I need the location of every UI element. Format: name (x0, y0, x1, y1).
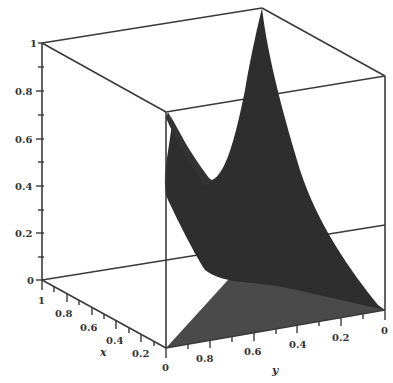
y-tick-label: 0 (381, 325, 388, 336)
z-tick-label: 1 (30, 38, 37, 49)
y-tick-label: 0.2 (332, 332, 349, 343)
x-tick-label: 0.6 (80, 322, 97, 333)
z-tick-label: 0 (27, 275, 34, 286)
x-tick-label: 0.8 (55, 308, 72, 319)
surface-main (165, 8, 385, 310)
x-tick-label: 0.4 (106, 335, 123, 346)
x-axis-title: x (99, 346, 107, 359)
z-tick-label: 0.8 (15, 86, 32, 97)
y-axis-title: y (271, 364, 280, 377)
x-axis-labels: 1 0.8 0.6 0.4 0.2 x (38, 295, 149, 359)
z-tick-label: 0.4 (15, 181, 32, 192)
z-axis-labels: 1 0.8 0.6 0.4 0.2 0 (15, 38, 37, 286)
z-tick-label: 0.6 (15, 134, 32, 145)
y-tick-label: 0.4 (289, 339, 306, 350)
x-tick-label: 1 (38, 295, 45, 306)
y-tick-label: 0 (162, 362, 169, 373)
y-tick-label: 0.8 (196, 353, 213, 364)
surface-plot-3d: 1 0.8 0.6 0.4 0.2 0 1 0.8 0.6 0.4 0.2 x … (0, 0, 393, 383)
x-tick-label: 0.2 (132, 348, 149, 359)
y-tick-label: 0.6 (244, 346, 261, 357)
z-tick-label: 0.2 (15, 228, 32, 239)
